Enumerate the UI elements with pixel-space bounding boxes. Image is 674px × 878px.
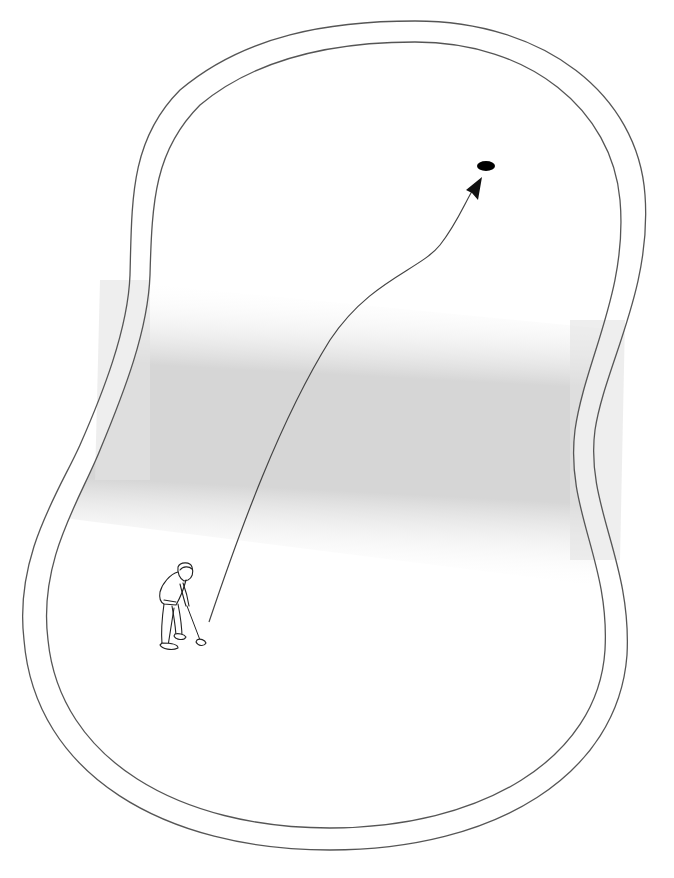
golfer-icon (160, 563, 206, 650)
putting-green-diagram (0, 0, 674, 878)
hole-icon (477, 161, 495, 171)
